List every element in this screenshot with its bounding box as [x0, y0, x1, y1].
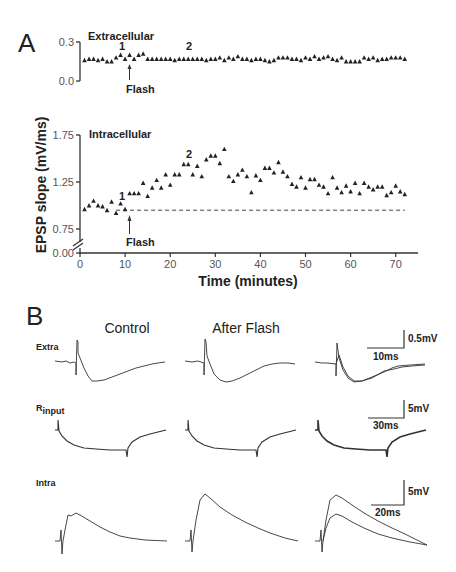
data-point-triangle	[267, 166, 272, 170]
data-point-triangle	[114, 211, 119, 215]
data-point-triangle	[141, 181, 146, 185]
data-point-triangle	[276, 55, 281, 59]
data-point-triangle	[150, 57, 155, 61]
data-point-triangle	[222, 58, 227, 62]
data-point-triangle	[326, 191, 331, 195]
data-point-triangle	[285, 174, 290, 178]
data-point-triangle	[398, 55, 403, 59]
data-point-triangle	[326, 54, 331, 58]
panel-label-b: B	[26, 301, 43, 331]
data-point-triangle	[254, 57, 259, 61]
column-title-after-flash: After Flash	[212, 320, 280, 336]
data-point-triangle	[150, 185, 155, 189]
x-tick-label: 0	[77, 258, 83, 270]
data-point-triangle	[330, 175, 335, 179]
data-point-triangle	[159, 57, 164, 61]
rinput-scale-x: 30ms	[373, 420, 399, 431]
data-point-triangle	[362, 55, 367, 59]
data-point-triangle	[384, 57, 389, 61]
data-point-triangle	[127, 53, 132, 57]
row-label-extra: Extra	[36, 342, 60, 352]
data-point-triangle	[254, 173, 259, 177]
data-point-triangle	[177, 57, 182, 61]
data-point-triangle	[181, 57, 186, 61]
int-ytick-075: 0.75	[53, 223, 74, 235]
intra-scale-x: 20ms	[375, 507, 401, 518]
data-point-triangle	[145, 57, 150, 61]
rinput-trace-control	[55, 420, 166, 457]
data-point-triangle	[195, 164, 200, 168]
int-ytick-125: 1.25	[53, 176, 74, 188]
data-point-triangle	[240, 167, 245, 171]
data-point-triangle	[136, 53, 141, 57]
extra-trace-overlay-1	[315, 343, 425, 382]
data-point-triangle	[245, 174, 250, 178]
panel-label-a: A	[18, 28, 36, 58]
data-point-triangle	[218, 161, 223, 165]
data-point-triangle	[123, 57, 128, 61]
data-point-triangle	[398, 189, 403, 193]
extra-scale-y: 0.5mV	[408, 333, 438, 344]
data-point-triangle	[348, 59, 353, 63]
ext-flash-arrow	[128, 64, 132, 80]
data-point-triangle	[172, 58, 177, 62]
data-point-triangle	[213, 57, 218, 61]
data-point-triangle	[362, 181, 367, 185]
data-point-triangle	[294, 57, 299, 61]
data-point-triangle	[393, 183, 398, 187]
data-point-triangle	[308, 177, 313, 181]
data-point-triangle	[335, 185, 340, 189]
data-point-triangle	[136, 191, 141, 195]
data-point-triangle	[353, 181, 358, 185]
intracellular-data-points	[82, 147, 407, 215]
intra-trace-overlay-large	[315, 495, 427, 552]
data-point-triangle	[285, 55, 290, 59]
data-point-triangle	[299, 175, 304, 179]
extra-scale-bar	[367, 330, 404, 348]
x-tick-label: 70	[390, 258, 402, 270]
data-point-triangle	[208, 153, 213, 157]
data-point-triangle	[172, 172, 177, 176]
data-point-triangle	[190, 57, 195, 61]
data-point-triangle	[263, 58, 268, 62]
data-point-triangle	[82, 58, 87, 62]
data-point-triangle	[348, 189, 353, 193]
data-point-triangle	[303, 185, 308, 189]
data-point-triangle	[272, 58, 277, 62]
data-point-triangle	[118, 53, 123, 57]
data-point-triangle	[258, 178, 263, 182]
data-point-triangle	[195, 57, 200, 61]
data-point-triangle	[163, 57, 168, 61]
data-point-triangle	[353, 59, 358, 63]
extra-scale-x: 10ms	[373, 351, 399, 362]
data-point-triangle	[145, 194, 150, 198]
extracellular-axis	[76, 42, 80, 81]
data-point-triangle	[199, 174, 204, 178]
data-point-triangle	[321, 55, 326, 59]
data-point-triangle	[168, 182, 173, 186]
rinput-scale-bar	[368, 400, 404, 418]
data-point-triangle	[294, 184, 299, 188]
data-point-triangle	[100, 57, 105, 61]
x-axis-ticks: 010203040506070	[77, 253, 402, 270]
int-mark-2: 2	[186, 148, 192, 160]
data-point-triangle	[240, 57, 245, 61]
data-point-triangle	[87, 57, 92, 61]
data-point-triangle	[258, 57, 263, 61]
ext-ytick-bottom: 0.0	[59, 75, 74, 87]
data-point-triangle	[402, 57, 407, 61]
data-point-triangle	[375, 58, 380, 62]
data-point-triangle	[91, 57, 96, 61]
data-point-triangle	[380, 57, 385, 61]
row-label-intra: Intra	[36, 478, 56, 488]
data-point-triangle	[281, 169, 286, 173]
data-point-triangle	[263, 166, 268, 170]
data-point-triangle	[330, 57, 335, 61]
x-tick-label: 30	[209, 258, 221, 270]
data-point-triangle	[96, 203, 101, 207]
data-point-triangle	[267, 59, 272, 63]
data-point-triangle	[82, 207, 87, 211]
data-point-triangle	[312, 177, 317, 181]
data-point-triangle	[227, 174, 232, 178]
data-point-triangle	[154, 57, 159, 61]
